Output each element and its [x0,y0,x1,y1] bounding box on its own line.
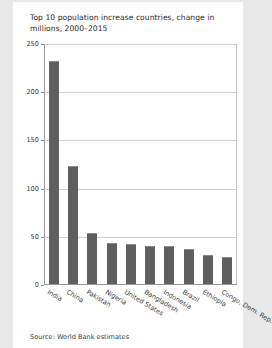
x-tick-label: Congo, Dem. Rep. [220,288,260,325]
y-tick-mark [41,285,44,286]
x-axis-line [44,284,237,285]
gridline [45,44,236,45]
y-tick-label: 150 [26,136,39,144]
y-tick-label: 50 [31,233,39,241]
bar [203,255,213,284]
y-tick-label: 250 [26,40,39,48]
bar [145,246,155,284]
y-axis-line [44,44,45,285]
chart-title: Top 10 population increase countries, ch… [30,13,235,34]
bar [107,243,117,284]
y-tick-mark [41,44,44,45]
x-tick-label: China [65,288,85,304]
y-tick-mark [41,140,44,141]
bar [222,257,232,284]
gridline [45,92,236,93]
y-tick-mark [41,92,44,93]
chart-figure: Top 10 population increase countries, ch… [13,2,243,348]
y-tick-label: 200 [26,88,39,96]
bar [49,61,59,284]
bar [184,249,194,284]
y-tick-mark [41,189,44,190]
bar [87,233,97,284]
x-tick-label: India [46,288,64,303]
bar [164,246,174,284]
plot-frame-right [236,44,237,285]
plot-area: 050100150200250 IndiaChinaPakistanNigeri… [44,44,237,285]
source-note: Source: World Bank estimates [30,333,129,341]
bar [126,244,136,284]
y-tick-label: 100 [26,185,39,193]
y-tick-mark [41,237,44,238]
gridline [45,140,236,141]
y-tick-label: 0 [35,281,39,289]
bar [68,166,78,284]
